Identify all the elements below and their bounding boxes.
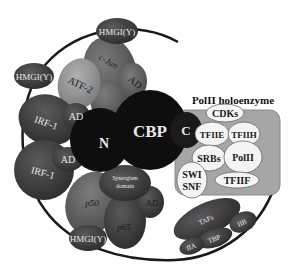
holoenzyme-title: PolII holoenzyme [192,94,274,106]
polii-label: PolII [232,152,254,163]
irf1-top-ad-label: AD [69,111,83,122]
enhanceosome-diagram: PolII holoenzyme [0,0,297,269]
tfiih-label: TFIIH [231,130,257,140]
p50-label: p50 [84,198,99,208]
srbs-label: SRBs [197,153,220,164]
tfiif-label: TFIIF [224,175,251,186]
tfiie-label: TFIIE [200,130,225,140]
p65-label: p65 [116,222,131,232]
synergism-label-line1: Synergism [112,175,138,181]
swi-snf-subunit [177,162,207,198]
cbp-n-label: N [99,136,109,151]
cbp-c-label: C [181,123,190,138]
swi-label: SWI [182,169,202,180]
p65-ad-label: AD [146,198,159,208]
cbp-label: CBP [133,122,167,141]
cdks-label: CDKs [212,108,238,119]
hmgiy-left-label: HMGI(Y) [16,72,53,82]
synergism-label-line2: domain [116,183,134,189]
hmgiy-top-label: HMGI(Y) [99,27,136,37]
irf1-bottom-ad-label: AD [61,154,75,165]
snf-label: SNF [183,181,202,192]
hmgiy-bottom-label: HMGI(Y) [70,234,107,244]
